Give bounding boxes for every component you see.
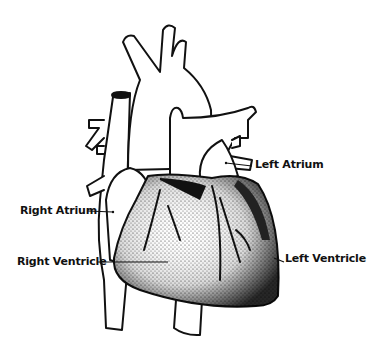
right-pulmonary-vein-mid <box>97 146 104 154</box>
label-left-atrium: Left Atrium <box>255 158 323 171</box>
label-left-ventricle: Left Ventricle <box>285 252 366 265</box>
inferior-vena-cava <box>174 300 202 335</box>
label-right-ventricle: Right Ventricle <box>17 255 106 268</box>
label-right-atrium: Right Atrium <box>20 204 97 217</box>
heart-diagram: Left Atrium Right Atrium Right Ventricle… <box>0 0 373 352</box>
heart-illustration <box>0 0 373 352</box>
